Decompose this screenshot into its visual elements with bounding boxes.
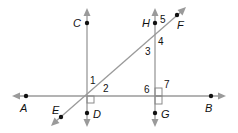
angle-label-5: 5 (160, 14, 166, 25)
point-b (209, 94, 213, 98)
angle-label-6: 6 (144, 84, 150, 95)
point-c (85, 21, 89, 25)
right-angle-mark-g-lower (155, 96, 162, 104)
line-hg (152, 8, 159, 127)
arrowhead-up-icon (152, 8, 159, 16)
line-ab (12, 93, 226, 100)
label-b: B (205, 102, 212, 114)
arrowhead-down-icon (84, 119, 91, 127)
angle-label-3: 3 (145, 46, 151, 57)
point-e (59, 115, 63, 119)
geometry-diagram: A B C D E F G H 1 2 3 4 5 6 7 (0, 0, 238, 133)
arrowhead-left-icon (12, 93, 20, 100)
label-e: E (52, 104, 60, 116)
label-h: H (142, 17, 150, 29)
arrowhead-right-icon (218, 93, 226, 100)
angle-label-2: 2 (103, 83, 109, 94)
right-angle-mark-d (87, 96, 94, 103)
label-a: A (19, 102, 27, 114)
angle-label-1: 1 (90, 75, 96, 86)
right-angle-mark-g-upper (155, 88, 162, 96)
point-h (153, 21, 157, 25)
label-d: D (93, 108, 101, 120)
angle-label-4: 4 (158, 36, 164, 47)
angle-label-7: 7 (164, 79, 170, 90)
label-g: G (161, 108, 170, 120)
point-a (24, 94, 28, 98)
label-c: C (73, 17, 81, 29)
point-g (153, 111, 157, 115)
point-d (85, 111, 89, 115)
arrowhead-up-icon (84, 8, 91, 16)
arrowhead-down-icon (152, 119, 159, 127)
label-f: F (177, 19, 185, 31)
point-f (175, 13, 179, 17)
line-cd (84, 8, 91, 127)
